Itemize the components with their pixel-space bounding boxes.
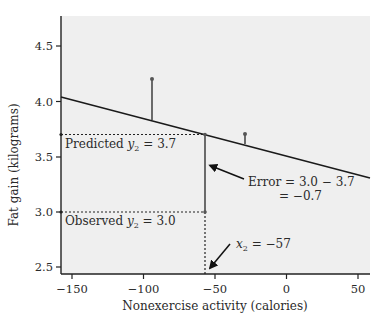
data-point-predicted [203,133,207,137]
observed-label: Observed y2 = 3.0 [65,214,176,230]
y-axis-marker [59,210,62,213]
svg-text:−100: −100 [128,282,160,296]
data-point [243,132,247,136]
y-ticks [56,46,61,267]
svg-text:2.5: 2.5 [35,260,53,274]
error-label-line1: Error = 3.0 − 3.7 [248,175,355,189]
y-axis-label: Fat gain (kilograms) [7,103,21,226]
svg-text:3.0: 3.0 [35,205,53,219]
y-axis-marker [59,133,62,136]
x-axis-label: Nonexercise activity (calories) [122,299,308,313]
svg-text:4.5: 4.5 [35,39,53,53]
residual-plot: 4.5 4.0 3.5 3.0 2.5 −150 −100 −50 0 50 N… [0,0,389,333]
error-label-line2: = −0.7 [279,189,322,203]
svg-text:3.5: 3.5 [35,150,53,164]
svg-text:50: 50 [351,282,366,296]
svg-text:0: 0 [283,282,290,296]
svg-text:−150: −150 [56,282,88,296]
predicted-label: Predicted y2 = 3.7 [65,137,176,153]
y-tick-labels: 4.5 4.0 3.5 3.0 2.5 [35,39,53,274]
svg-text:4.0: 4.0 [35,95,53,109]
data-point [150,77,154,81]
svg-text:−50: −50 [203,282,227,296]
data-point-observed [203,210,207,214]
x-tick-labels: −150 −100 −50 0 50 [56,282,365,296]
x-ticks [72,274,358,279]
